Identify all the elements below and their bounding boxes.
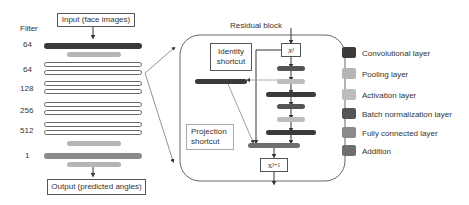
residual-block-bar <box>44 62 142 67</box>
residual-block-title: Residual block <box>230 21 282 30</box>
legend-swatch-activation <box>342 89 356 100</box>
addition-bar <box>248 143 300 148</box>
residual-block-bar <box>44 110 142 115</box>
pooling-layer-bar <box>67 52 121 57</box>
identity-shortcut-label: Identity shortcut <box>210 43 252 71</box>
residual-block-bar <box>44 130 142 135</box>
conv-layer-bar <box>44 43 142 49</box>
x-l-plus-1-box: xl+1 <box>260 158 288 172</box>
filter-value: 64 <box>23 40 32 49</box>
legend-label: Batch normalization layer <box>362 110 452 119</box>
legend-swatch-fully-connected <box>342 127 356 138</box>
legend-label: Activation layer <box>362 91 416 100</box>
residual-block-bar <box>44 102 142 107</box>
filter-value: 512 <box>20 126 33 135</box>
legend-swatch-convolutional <box>342 47 356 58</box>
residual-block-bar <box>44 81 142 86</box>
pooling-layer-bar <box>67 141 121 146</box>
pooling-layer-bar <box>67 162 121 167</box>
legend-swatch-pooling <box>342 68 356 79</box>
activation-bar <box>277 117 305 122</box>
projection-conv-bar <box>195 79 247 84</box>
legend-label: Convolutional layer <box>362 49 430 58</box>
conv-layer-bar <box>266 130 316 135</box>
batch-norm-bar <box>277 104 305 109</box>
x-out-subscript: l+1 <box>272 160 280 170</box>
filter-value: 1 <box>25 151 29 160</box>
x-l-box: xl <box>281 43 301 57</box>
activation-bar <box>277 79 305 84</box>
residual-block-bar <box>44 89 142 94</box>
residual-block-bar <box>44 70 142 75</box>
legend-swatch-batch-norm <box>342 108 356 119</box>
projection-shortcut-label: Projection shortcut <box>186 124 234 150</box>
filter-value: 128 <box>20 84 33 93</box>
conv-layer-bar <box>266 92 316 97</box>
legend-label: Pooling layer <box>362 70 408 79</box>
fully-connected-bar <box>44 153 142 159</box>
batch-norm-bar <box>277 66 305 71</box>
filter-value: 256 <box>20 106 33 115</box>
legend-label: Addition <box>362 147 391 156</box>
filter-header: Filter <box>20 24 38 33</box>
x-in-subscript: l <box>292 45 294 55</box>
filter-value: 64 <box>23 65 32 74</box>
input-box: Input (face images) <box>57 13 135 27</box>
residual-block-bar <box>44 122 142 127</box>
legend-swatch-addition <box>342 145 356 156</box>
output-box: Output (predicted angles) <box>47 179 146 195</box>
legend-label: Fully connected layer <box>362 129 438 138</box>
